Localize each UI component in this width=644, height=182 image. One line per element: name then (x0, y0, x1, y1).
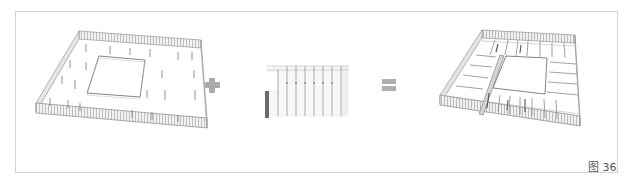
figure-caption: 图 36 (588, 158, 617, 174)
assembled-floor-model (0, 0, 644, 182)
